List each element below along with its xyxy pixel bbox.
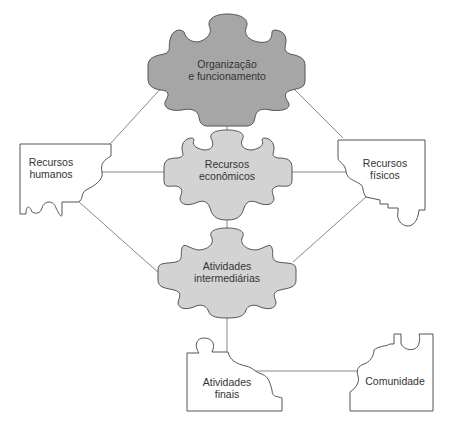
label-recursos-fisicos: Recursos físicos — [363, 157, 407, 181]
label-line: humanos — [29, 168, 73, 180]
label-atividades-finais: Atividades finais — [203, 376, 251, 400]
label-line: Atividades — [194, 260, 260, 272]
label-line: Recursos — [363, 157, 407, 169]
label-atividades-intermediarias: Atividades intermediárias — [194, 260, 260, 284]
edge-humanos-intermediarias — [78, 201, 160, 274]
label-recursos-humanos: Recursos humanos — [29, 156, 73, 180]
label-line: Comunidade — [365, 375, 425, 387]
puzzle-piece-comunidade — [350, 334, 433, 411]
puzzle-piece-recursos-humanos — [20, 144, 111, 216]
edge-fisicos-intermediarias — [293, 197, 366, 262]
edge-org-humanos — [110, 84, 165, 144]
label-line: finais — [203, 388, 251, 400]
label-line: físicos — [363, 169, 407, 181]
label-comunidade: Comunidade — [365, 375, 425, 387]
label-line: Organização — [188, 58, 266, 70]
label-line: econômicos — [199, 170, 255, 182]
label-line: Recursos — [199, 158, 255, 170]
label-line: Recursos — [29, 156, 73, 168]
puzzle-piece-atividades-finais — [187, 338, 282, 411]
puzzle-piece-recursos-fisicos — [338, 140, 425, 226]
label-recursos-economicos: Recursos econômicos — [199, 158, 255, 182]
label-line: Atividades — [203, 376, 251, 388]
label-line: intermediárias — [194, 272, 260, 284]
label-line: e funcionamento — [188, 70, 266, 82]
edge-org-fisicos — [288, 83, 343, 138]
label-organizacao: Organização e funcionamento — [188, 58, 266, 82]
